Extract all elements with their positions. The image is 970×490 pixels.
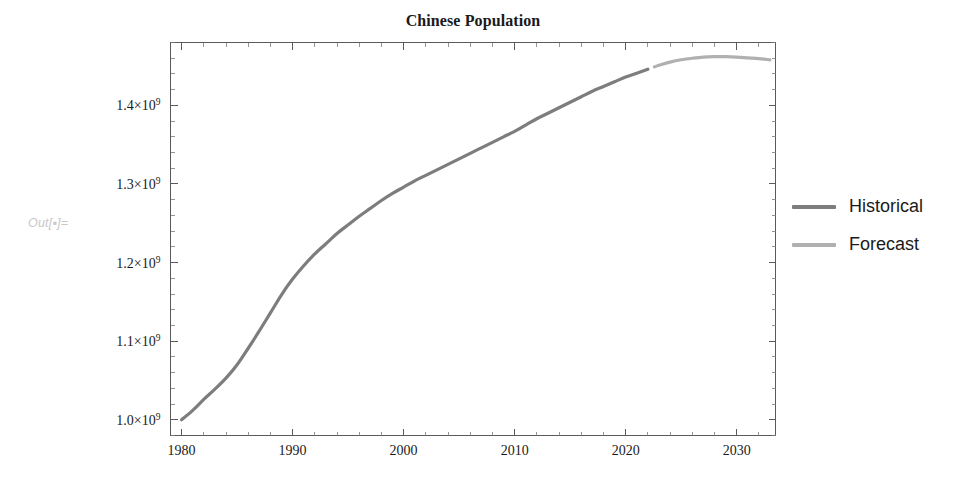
legend-label: Forecast [849,234,919,255]
legend-swatch-icon [792,205,836,209]
chart-plot-area: 1980199020002010202020301.0×1091.1×1091.… [0,0,800,490]
series-line-historical [182,69,648,420]
y-tick-label: 1.4×109 [116,97,160,113]
legend-swatch-icon [792,243,836,247]
x-tick-label: 1990 [279,443,307,458]
series-line-forecast [655,57,770,67]
y-tick-label: 1.1×109 [116,333,160,349]
chart-frame [171,43,776,436]
chart-svg: 1980199020002010202020301.0×1091.1×1091.… [0,0,800,490]
legend-item-historical[interactable]: Historical [792,196,923,217]
notebook-output-cell: Out[▪]= Chinese Population 1980199020002… [0,0,970,490]
x-tick-label: 2010 [501,443,529,458]
legend-item-forecast[interactable]: Forecast [792,234,923,255]
x-tick-label: 2030 [723,443,751,458]
y-tick-label: 1.0×109 [116,412,160,428]
y-tick-label: 1.3×109 [116,176,160,192]
x-tick-label: 2000 [390,443,418,458]
y-tick-label: 1.2×109 [116,255,160,271]
x-tick-label: 1980 [168,443,196,458]
chart-legend: HistoricalForecast [792,196,923,255]
legend-label: Historical [849,196,923,217]
x-tick-label: 2020 [612,443,640,458]
